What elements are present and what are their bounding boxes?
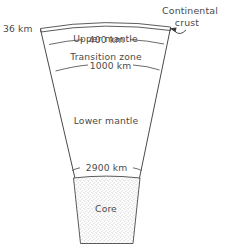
earth-interior-diagram: 36 km Upper mantle 400 km 400 km Transit… <box>0 0 227 250</box>
boundary-tick-2900-right <box>133 168 142 171</box>
layer-label-lower-mantle: Lower mantle <box>74 115 139 126</box>
depth-label-1000-km: 1000 km <box>90 60 132 71</box>
depth-label-crust: 36 km <box>3 23 33 34</box>
layer-label-core: Core <box>95 203 117 214</box>
depth-label-400-km: 400 km <box>89 34 125 45</box>
diagram-canvas: 36 km Upper mantle 400 km 400 km Transit… <box>0 0 227 250</box>
depth-label-2900-km: 2900 km <box>86 162 128 173</box>
callout-label-line2: crust <box>175 17 199 28</box>
wedge-right-edge <box>139 28 171 181</box>
boundary-arc-1000-left <box>56 65 89 71</box>
callout-leader-line <box>175 30 187 34</box>
continental-crust-band <box>41 23 171 32</box>
callout-label-line1: Continental <box>162 5 218 16</box>
boundary-arc-1000-right <box>133 65 160 70</box>
